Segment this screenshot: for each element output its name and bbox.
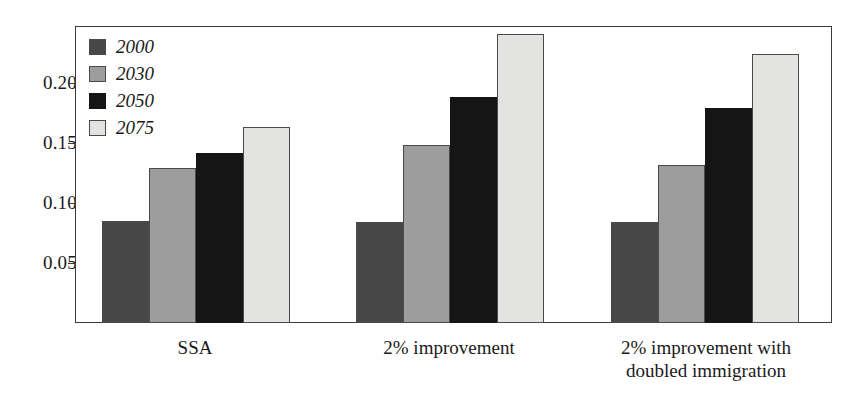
legend-swatch-icon — [89, 93, 106, 109]
x-axis-category-label-ssa: SSA — [102, 336, 288, 359]
bar-2050-group-1 — [196, 153, 243, 323]
bar-chart: 0.20 0.15 0.10 0.05 2000 2030 2050 2075 — [0, 0, 857, 394]
x-axis-category-label-improvement: 2% improvement — [356, 336, 542, 359]
legend-item-2075: 2075 — [89, 114, 207, 141]
x-axis-category-label-improvement-immigration: 2% improvement with doubled immigration — [611, 336, 801, 382]
bar-2000-group-2 — [356, 222, 403, 323]
bar-2000-group-1 — [102, 221, 149, 323]
legend-item-2000: 2000 — [89, 33, 207, 60]
category-line-1: 2% improvement — [383, 337, 514, 358]
bar-2075-group-3 — [752, 54, 799, 323]
legend-swatch-icon — [89, 120, 106, 136]
bar-2050-group-3 — [705, 108, 752, 323]
legend-swatch-icon — [89, 39, 106, 55]
legend-item-2030: 2030 — [89, 60, 207, 87]
category-line-1: 2% improvement with — [621, 337, 791, 358]
legend-swatch-icon — [89, 66, 106, 82]
bar-2075-group-2 — [497, 34, 544, 323]
category-line-1: SSA — [178, 337, 213, 358]
legend-item-2050: 2050 — [89, 87, 207, 114]
legend-label: 2030 — [116, 64, 154, 83]
legend: 2000 2030 2050 2075 — [89, 33, 207, 141]
legend-label: 2075 — [116, 118, 154, 137]
bar-2075-group-1 — [243, 127, 290, 323]
bar-2030-group-1 — [149, 168, 196, 323]
bar-2050-group-2 — [450, 97, 497, 323]
bar-2000-group-3 — [611, 222, 658, 323]
category-line-2: doubled immigration — [611, 359, 801, 382]
legend-label: 2000 — [116, 37, 154, 56]
legend-label: 2050 — [116, 91, 154, 110]
bar-2030-group-3 — [658, 165, 705, 323]
bar-2030-group-2 — [403, 145, 450, 323]
